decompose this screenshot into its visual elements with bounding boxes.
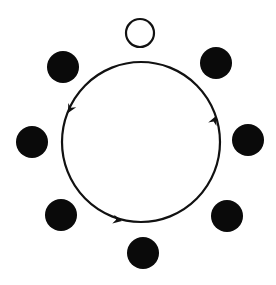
node-top-open <box>126 19 154 47</box>
nodes <box>16 19 264 269</box>
loop-circle <box>62 62 220 222</box>
cycle-diagram <box>0 0 276 285</box>
node-top-left <box>47 51 79 83</box>
loop-arrows <box>64 103 220 225</box>
node-right <box>232 124 264 156</box>
node-bottom <box>127 237 159 269</box>
node-top-right <box>200 47 232 79</box>
circular-loop <box>62 62 220 222</box>
node-left <box>16 126 48 158</box>
node-bottom-left <box>45 199 77 231</box>
node-bottom-right <box>211 200 243 232</box>
